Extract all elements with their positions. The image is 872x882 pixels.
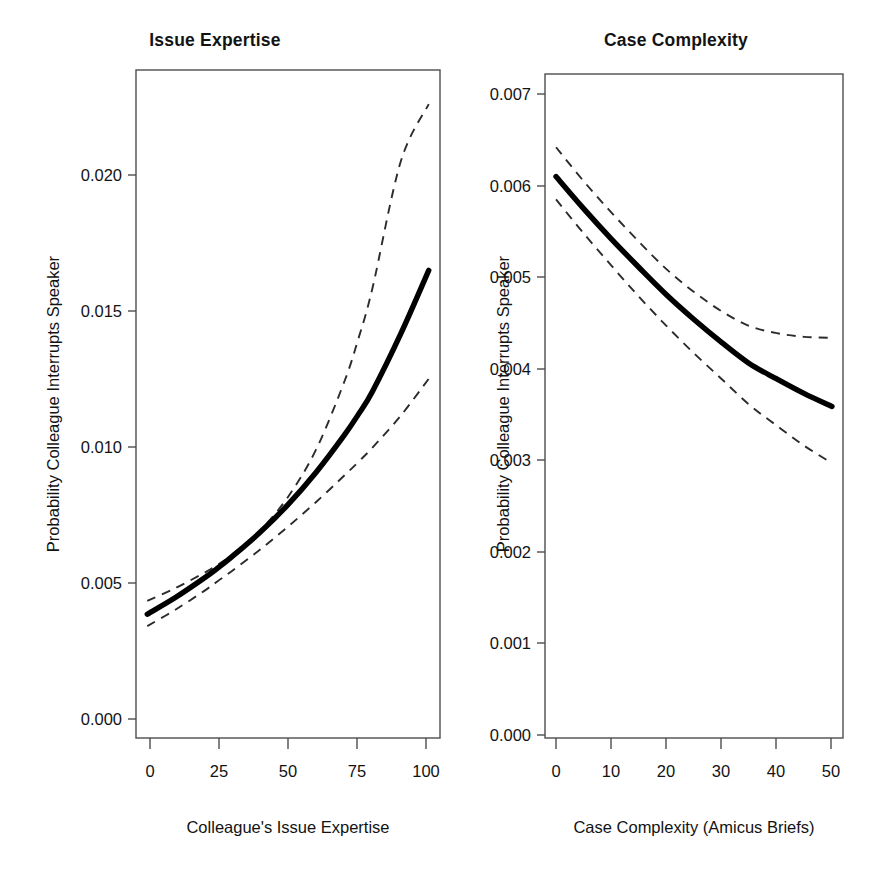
xtick-label: 50 [279, 762, 297, 781]
plot-area-right [460, 0, 872, 882]
y-ticks-left [128, 175, 136, 719]
xtick-label: 40 [767, 762, 785, 781]
x-ticks-right [556, 738, 831, 749]
ytick-label: 0.001 [460, 634, 531, 653]
x-axis-title-left: Colleague's Issue Expertise [186, 818, 389, 837]
xtick-label: 20 [657, 762, 675, 781]
panel-case-complexity: Case Complexity [460, 0, 872, 882]
xtick-label: 75 [348, 762, 366, 781]
xtick-label: 100 [412, 762, 440, 781]
xtick-label: 30 [712, 762, 730, 781]
ci-upper-line-right [556, 147, 832, 337]
ci-lower-line-right [556, 199, 832, 463]
xtick-label: 25 [210, 762, 228, 781]
xtick-label: 0 [551, 762, 560, 781]
ytick-label: 0.006 [460, 177, 531, 196]
xtick-label: 0 [145, 762, 154, 781]
y-axis-title-left: Probability Colleague Interrupts Speaker [44, 256, 63, 552]
ytick-label: 0.020 [0, 166, 122, 185]
ytick-label: 0.000 [460, 726, 531, 745]
ytick-label: 0.005 [0, 574, 122, 593]
axis-box-right [545, 74, 843, 738]
x-ticks-left [150, 738, 426, 749]
fit-line-left [147, 270, 428, 614]
x-axis-title-right: Case Complexity (Amicus Briefs) [573, 818, 814, 837]
panel-issue-expertise: Issue Expertise [0, 0, 460, 882]
ytick-label: 0.007 [460, 85, 531, 104]
axis-box-left [136, 70, 440, 738]
ci-upper-line-left [147, 104, 428, 601]
ytick-label: 0.000 [0, 710, 122, 729]
y-axis-title-right: Probability Colleague Interrupts Speaker [494, 256, 513, 552]
figure: Issue Expertise [0, 0, 872, 882]
y-ticks-right [537, 94, 545, 735]
xtick-label: 50 [822, 762, 840, 781]
xtick-label: 10 [602, 762, 620, 781]
